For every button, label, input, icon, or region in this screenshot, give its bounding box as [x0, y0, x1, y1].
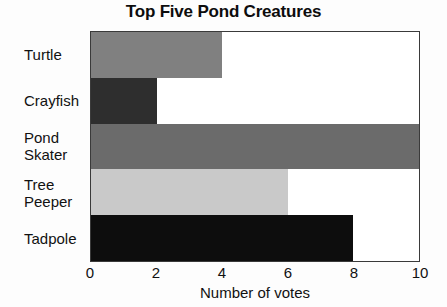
bar-crayfish — [91, 78, 157, 124]
x-tick-label: 2 — [152, 264, 160, 281]
bar-turtle — [91, 32, 222, 78]
bar-pond-skater — [91, 124, 419, 170]
x-tick-label: 0 — [86, 264, 94, 281]
category-label-crayfish: Crayfish — [0, 77, 88, 123]
x-tick-label: 6 — [284, 264, 292, 281]
bar-row — [91, 124, 419, 170]
x-axis-title: Number of votes — [90, 284, 420, 301]
category-label-tadpole: Tadpole — [0, 216, 88, 262]
x-tick-label: 4 — [218, 264, 226, 281]
category-axis-labels: Turtle Crayfish Pond Skater Tree Peeper … — [0, 31, 88, 262]
x-axis-tick-labels: 0246810 — [90, 264, 420, 284]
plot-area — [90, 31, 420, 262]
bar-row — [91, 215, 419, 261]
bar-tree-peeper — [91, 169, 288, 215]
bar-row — [91, 32, 419, 78]
bar-row — [91, 78, 419, 124]
category-label-pond-skater: Pond Skater — [0, 123, 88, 169]
x-tick-label: 10 — [412, 264, 429, 281]
category-label-turtle: Turtle — [0, 31, 88, 77]
bar-tadpole — [91, 215, 353, 261]
bar-chart: Top Five Pond Creatures Turtle Crayfish … — [0, 0, 447, 307]
bar-row — [91, 169, 419, 215]
x-tick-label: 8 — [350, 264, 358, 281]
category-label-tree-peeper: Tree Peeper — [0, 170, 88, 216]
chart-title: Top Five Pond Creatures — [0, 2, 447, 22]
